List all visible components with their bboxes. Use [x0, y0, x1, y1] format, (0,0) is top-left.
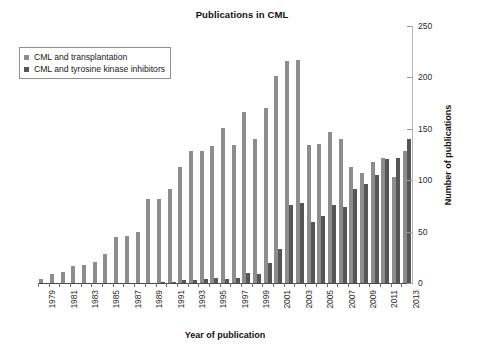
bar	[332, 205, 336, 283]
bar	[385, 159, 389, 283]
x-axis-tick-mark	[123, 283, 124, 287]
x-axis-tick-mark	[166, 283, 167, 287]
legend-item[interactable]: CML and tyrosine kinase inhibitors	[24, 63, 165, 75]
bar	[157, 199, 161, 283]
x-axis-tick-mark	[177, 283, 178, 287]
bar-group	[348, 26, 359, 283]
legend-item-label: CML and tyrosine kinase inhibitors	[34, 63, 165, 75]
x-axis-tick-mark	[145, 283, 146, 287]
bar	[242, 112, 246, 283]
x-axis-tick-mark	[380, 283, 381, 287]
bar-group	[380, 26, 391, 283]
bar	[375, 175, 379, 283]
y-axis-tick-label: 250	[418, 21, 432, 31]
bar	[257, 274, 261, 283]
x-axis-tick-mark	[273, 283, 274, 287]
bar	[125, 236, 129, 283]
x-axis-tick-label: 1979	[47, 290, 57, 309]
x-axis-tick-mark	[70, 283, 71, 287]
x-axis-tick-mark	[59, 283, 60, 287]
legend-item[interactable]: CML and transplantation	[24, 51, 165, 63]
bar	[103, 254, 107, 283]
y-axis-line	[412, 26, 413, 284]
bar-group	[284, 26, 295, 283]
bar	[396, 158, 400, 283]
x-axis-tick-mark	[188, 283, 189, 287]
y-axis-tick-mark	[407, 77, 412, 78]
x-axis-tick-mark	[81, 283, 82, 287]
x-axis-tick-mark	[337, 283, 338, 287]
x-axis-tick-mark	[49, 283, 50, 287]
bar-group	[305, 26, 316, 283]
legend-item-label: CML and transplantation	[34, 51, 127, 63]
bar-group	[391, 26, 402, 283]
y-axis-title-text: Number of publications	[443, 104, 453, 205]
x-axis-tick-mark	[391, 283, 392, 287]
y-axis-tick-label: 100	[418, 175, 432, 185]
bar-group	[327, 26, 338, 283]
chart-figure: Publications in CML 050100150200250 1979…	[0, 0, 484, 355]
x-axis-tick-mark	[209, 283, 210, 287]
bar	[221, 128, 225, 283]
bar-group	[188, 26, 199, 283]
x-axis-tick-label: 2003	[304, 290, 314, 309]
x-axis-tick-label: 2007	[347, 290, 357, 309]
bar-group	[230, 26, 241, 283]
bar	[407, 139, 411, 283]
legend-swatch-icon	[24, 55, 29, 60]
x-axis-tick-mark	[348, 283, 349, 287]
bar	[168, 189, 172, 283]
bar	[246, 273, 250, 283]
y-axis-tick-label: 50	[418, 227, 427, 237]
x-axis-tick-label: 1995	[218, 290, 228, 309]
x-axis-tick-mark	[134, 283, 135, 287]
x-axis-tick-mark	[262, 283, 263, 287]
bar	[50, 274, 54, 283]
x-axis-tick-label: 2005	[325, 290, 335, 309]
x-axis-tick-label: 1983	[90, 290, 100, 309]
bar	[178, 167, 182, 283]
x-axis-tick-label: 2013	[411, 290, 421, 309]
bar-group	[295, 26, 306, 283]
bar	[136, 232, 140, 283]
y-axis-tick-mark	[407, 26, 412, 27]
bar-group	[369, 26, 380, 283]
bar	[71, 266, 75, 283]
y-axis-tick-mark	[407, 129, 412, 130]
x-axis-tick-label: 1997	[240, 290, 250, 309]
bar	[364, 184, 368, 283]
x-axis-tick-mark	[305, 283, 306, 287]
x-axis-tick-mark	[369, 283, 370, 287]
bar	[210, 146, 214, 283]
legend-swatch-icon	[24, 67, 29, 72]
x-axis-tick-mark	[284, 283, 285, 287]
bar-group	[359, 26, 370, 283]
x-axis-line	[38, 283, 413, 284]
bar	[114, 237, 118, 283]
bar	[200, 151, 204, 283]
x-axis-tick-label: 1991	[176, 290, 186, 309]
chart-legend: CML and transplantationCML and tyrosine …	[19, 47, 171, 79]
x-axis-tick-mark	[113, 283, 114, 287]
y-axis-tick-label: 150	[418, 124, 432, 134]
x-axis-tick-label: 1985	[111, 290, 121, 309]
bar	[232, 145, 236, 283]
bar-group	[273, 26, 284, 283]
bar-group	[220, 26, 231, 283]
x-axis-title: Year of publication	[38, 330, 412, 340]
x-axis-tick-mark	[156, 283, 157, 287]
bar	[321, 216, 325, 283]
bar-group	[241, 26, 252, 283]
bar-group	[337, 26, 348, 283]
y-axis-title: Number of publications	[441, 26, 455, 283]
x-axis-tick-mark	[38, 283, 39, 287]
x-axis-tick-mark	[241, 283, 242, 287]
bar	[253, 139, 257, 283]
bar	[82, 265, 86, 284]
x-axis-tick-mark	[294, 283, 295, 287]
bar-group	[316, 26, 327, 283]
x-axis-tick-mark	[359, 283, 360, 287]
bar-group	[198, 26, 209, 283]
x-axis-tick-mark	[316, 283, 317, 287]
x-axis-tick-mark	[230, 283, 231, 287]
